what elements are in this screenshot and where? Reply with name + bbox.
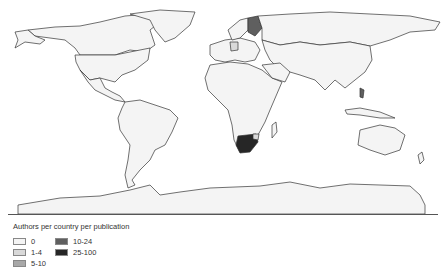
- country-scandinavia: [228, 18, 248, 40]
- legend-item-0: 0: [13, 236, 55, 247]
- world-map: [0, 0, 444, 216]
- country-canada: [28, 14, 160, 55]
- legend-swatch: [13, 238, 26, 245]
- legend-swatch: [13, 249, 26, 256]
- country-lesotho: [253, 134, 259, 140]
- country-brazil-etc: [118, 100, 178, 188]
- legend-swatch: [13, 260, 26, 267]
- country-australia: [358, 125, 405, 155]
- antarctica: [18, 182, 425, 214]
- legend: Authors per country per publication 0 1-…: [13, 222, 129, 269]
- legend-item-25-100: 25-100: [55, 247, 115, 258]
- legend-swatch: [55, 249, 68, 256]
- legend-label: 5-10: [31, 259, 46, 268]
- legend-items: 0 1-4 5-10 10-24 25-100: [13, 236, 129, 269]
- legend-item-1-4: 1-4: [13, 247, 55, 258]
- legend-swatch: [55, 238, 68, 245]
- country-philippines: [360, 88, 364, 98]
- legend-item-5-10: 5-10: [13, 258, 55, 269]
- legend-title: Authors per country per publication: [13, 222, 129, 231]
- country-germany: [230, 42, 238, 51]
- legend-item-10-24: 10-24: [55, 236, 115, 247]
- legend-label: 1-4: [31, 248, 42, 257]
- legend-label: 25-100: [73, 248, 96, 257]
- country-indonesia: [345, 108, 395, 118]
- country-russia: [258, 12, 440, 46]
- country-madagascar: [272, 122, 277, 138]
- map-baseline: [8, 214, 438, 215]
- legend-label: 0: [31, 237, 35, 246]
- country-new-zealand: [418, 152, 424, 164]
- legend-label: 10-24: [73, 237, 92, 246]
